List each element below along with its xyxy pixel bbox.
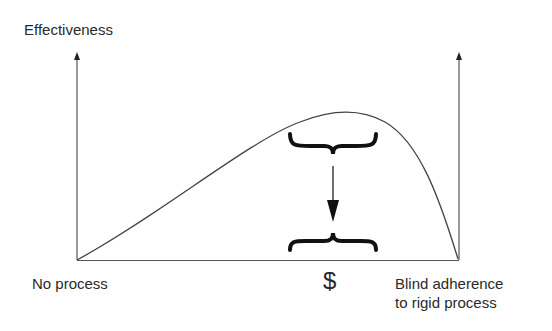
down-arrow-icon <box>327 200 339 222</box>
bottom-brace-icon <box>290 233 376 250</box>
top-brace-icon <box>290 134 376 154</box>
x-axis-right-label-line1: Blind adherence <box>395 274 503 293</box>
x-axis-right-label-line2: to rigid process <box>395 293 503 312</box>
y-axis-label: Effectiveness <box>24 20 113 39</box>
x-axis-right-label: Blind adherence to rigid process <box>395 274 503 312</box>
x-axis-left-label: No process <box>32 274 108 293</box>
left-axis-arrowhead-icon <box>74 52 80 60</box>
dollar-symbol-label: $ <box>323 267 336 295</box>
right-axis-arrowhead-icon <box>456 52 462 60</box>
effectiveness-curve <box>77 112 458 260</box>
